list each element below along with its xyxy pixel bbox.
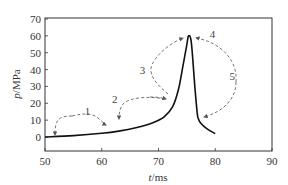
- y-axis-label: p/MPa: [10, 69, 22, 99]
- annotation-labels: 12345: [85, 28, 236, 117]
- x-tick-label: 70: [153, 155, 165, 167]
- y-tick-label: 30: [30, 80, 42, 92]
- annotation-arrows: [55, 38, 236, 135]
- y-tick-label: 50: [30, 47, 42, 59]
- y-tick-label: 60: [30, 30, 42, 42]
- annotation-label-2: 2: [112, 93, 118, 105]
- pressure-curve: [45, 35, 215, 137]
- arrow-2: [119, 97, 165, 119]
- annotation-label-4: 4: [210, 28, 216, 40]
- x-tick-label: 80: [210, 155, 222, 167]
- x-tick-label: 90: [267, 155, 279, 167]
- y-tick-label: 0: [36, 131, 42, 143]
- pressure-time-chart: 010203040506070 5060708090 p/MPa t/ms 12…: [0, 0, 288, 185]
- y-tick-label: 10: [30, 114, 42, 126]
- arrow-3: [151, 38, 183, 94]
- annotation-label-5: 5: [230, 70, 236, 82]
- y-tick-label: 40: [30, 64, 42, 76]
- y-tick-label: 20: [30, 97, 42, 109]
- y-tick-label: 70: [30, 13, 42, 25]
- x-tick-label: 50: [40, 155, 52, 167]
- arrow-1-left: [55, 116, 72, 135]
- annotation-label-1: 1: [85, 105, 91, 117]
- x-axis-label: t/ms: [149, 171, 168, 183]
- arrow-5: [204, 82, 236, 117]
- annotation-label-3: 3: [140, 64, 146, 76]
- x-tick-label: 60: [96, 155, 108, 167]
